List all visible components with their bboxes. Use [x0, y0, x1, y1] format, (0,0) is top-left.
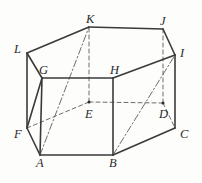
edge-f-e: [27, 102, 89, 128]
edge-i-j: [163, 29, 175, 55]
vertex-label-d: D: [159, 108, 168, 121]
diagonal-b-i: [113, 55, 175, 155]
vertex-dot-d: [162, 102, 165, 105]
vertex-label-b: B: [109, 157, 117, 170]
vertex-label-a: A: [36, 157, 44, 170]
edge-a-g: [40, 78, 42, 155]
solid-edge-group: [27, 27, 175, 155]
vertex-label-c: C: [180, 128, 188, 141]
vertex-label-h: H: [110, 64, 119, 77]
vertex-dot-e: [88, 101, 91, 104]
edge-b-c: [113, 128, 175, 155]
vertex-label-j: J: [160, 15, 166, 28]
vertex-label-g: G: [39, 64, 48, 77]
vertex-label-e: E: [85, 108, 93, 121]
figure-canvas: [0, 0, 202, 183]
edge-e-d: [89, 102, 163, 103]
edge-j-k: [89, 27, 163, 29]
edge-h-i: [113, 55, 175, 78]
diagonal-a-k: [40, 27, 89, 155]
vertex-label-l: L: [14, 43, 21, 56]
edge-k-l: [27, 27, 89, 53]
diagonal-edge-group: [40, 27, 175, 155]
edge-a-f: [27, 128, 40, 155]
vertex-label-f: F: [14, 128, 22, 141]
vertex-label-k: K: [86, 13, 94, 26]
edge-f-g: [27, 78, 42, 128]
geometry-figure: ABCDEFGHIJKL: [0, 0, 202, 183]
vertex-label-i: I: [180, 47, 184, 60]
